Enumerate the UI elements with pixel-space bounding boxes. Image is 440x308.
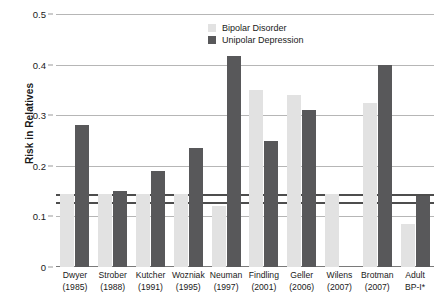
- bar: [136, 194, 150, 267]
- legend-item: Bipolar Disorder: [208, 22, 358, 33]
- y-axis-tick-mark: [48, 14, 53, 15]
- bar-groups: [56, 14, 434, 267]
- x-axis-label-line: Kutcher: [132, 270, 170, 282]
- x-axis-label-line: Dwyer: [56, 270, 94, 282]
- bar: [249, 90, 263, 267]
- bar-group: [283, 14, 321, 267]
- legend-label: Unipolar Depression: [222, 35, 304, 45]
- y-axis-tick-mark: [48, 267, 53, 268]
- bar: [287, 95, 301, 267]
- bar: [174, 194, 188, 267]
- legend-swatch-icon: [208, 24, 216, 32]
- bar: [151, 171, 165, 267]
- x-axis-label-line: (1988): [94, 282, 132, 294]
- x-axis-label-line: (1997): [207, 282, 245, 294]
- bar: [302, 110, 316, 267]
- legend-item: Unipolar Depression: [208, 34, 358, 45]
- x-axis-label-line: Wilens: [321, 270, 359, 282]
- bar-group: [94, 14, 132, 267]
- x-axis-tick-label: Geller(2006): [283, 270, 321, 308]
- bar-group: [169, 14, 207, 267]
- bar: [75, 125, 89, 267]
- x-axis-label-line: (2006): [283, 282, 321, 294]
- x-axis-label-line: (1991): [132, 282, 170, 294]
- x-axis-tick-label: Wilens(2007): [321, 270, 359, 308]
- x-axis-tick-label: Dwyer(1985): [56, 270, 94, 308]
- y-axis-tick-label: 0.5: [33, 9, 46, 20]
- x-axis-label-line: Adult: [396, 270, 434, 282]
- y-axis-tick-label: 0.1: [33, 211, 46, 222]
- x-axis-label-line: Brotman: [358, 270, 396, 282]
- x-axis-label-line: Neuman: [207, 270, 245, 282]
- bar: [325, 194, 339, 267]
- y-axis-tick-mark: [48, 216, 53, 217]
- bar: [98, 194, 112, 267]
- bar-group: [56, 14, 94, 267]
- x-axis-label-line: (1985): [56, 282, 94, 294]
- y-axis-tick-label: 0: [41, 262, 46, 273]
- bar-chart: Risk in Relatives 00.10.20.30.40.5 Dwyer…: [0, 0, 440, 308]
- x-axis-tick-label: Wozniak(1995): [169, 270, 207, 308]
- x-axis-labels: Dwyer(1985)Strober(1988)Kutcher(1991)Woz…: [56, 270, 434, 308]
- y-axis-tick-mark: [48, 115, 53, 116]
- x-axis-tick-label: Brotman(2007): [358, 270, 396, 308]
- bar-group: [358, 14, 396, 267]
- bar-group: [321, 14, 359, 267]
- x-axis-tick-label: Findling(2001): [245, 270, 283, 308]
- chart-legend: Bipolar DisorderUnipolar Depression: [208, 22, 358, 46]
- bar-group: [396, 14, 434, 267]
- x-axis-label-line: Findling: [245, 270, 283, 282]
- bar: [264, 141, 278, 268]
- x-axis-label-line: BP-I*: [396, 282, 434, 294]
- x-axis-tick-label: Kutcher(1991): [132, 270, 170, 308]
- bar: [113, 191, 127, 267]
- x-axis-label-line: (1995): [169, 282, 207, 294]
- x-axis-label-line: (2007): [358, 282, 396, 294]
- x-axis-label-line: Wozniak: [169, 270, 207, 282]
- bar: [416, 196, 430, 267]
- y-axis-tick-mark: [48, 64, 53, 65]
- plot-area: [56, 14, 434, 267]
- bar: [401, 224, 415, 267]
- y-axis-tick-mark: [48, 165, 53, 166]
- y-axis-tick-label: 0.3: [33, 110, 46, 121]
- bar-group: [245, 14, 283, 267]
- x-axis-label-line: (2001): [245, 282, 283, 294]
- x-axis-tick-label: AdultBP-I*: [396, 270, 434, 308]
- y-axis-ticks: 00.10.20.30.40.5: [0, 0, 56, 308]
- x-axis-label-line: Strober: [94, 270, 132, 282]
- legend-swatch-icon: [208, 36, 216, 44]
- bar: [363, 103, 377, 267]
- x-axis-label-line: Geller: [283, 270, 321, 282]
- legend-label: Bipolar Disorder: [222, 23, 287, 33]
- bar-group: [207, 14, 245, 267]
- y-axis-tick-label: 0.2: [33, 160, 46, 171]
- bar: [227, 56, 241, 268]
- bar: [189, 148, 203, 267]
- y-axis-tick-label: 0.4: [33, 59, 46, 70]
- x-axis-tick-label: Strober(1988): [94, 270, 132, 308]
- bar: [378, 65, 392, 267]
- bar-group: [132, 14, 170, 267]
- x-axis-tick-label: Neuman(1997): [207, 270, 245, 308]
- bar: [60, 194, 74, 267]
- x-axis-label-line: (2007): [321, 282, 359, 294]
- bar: [212, 206, 226, 267]
